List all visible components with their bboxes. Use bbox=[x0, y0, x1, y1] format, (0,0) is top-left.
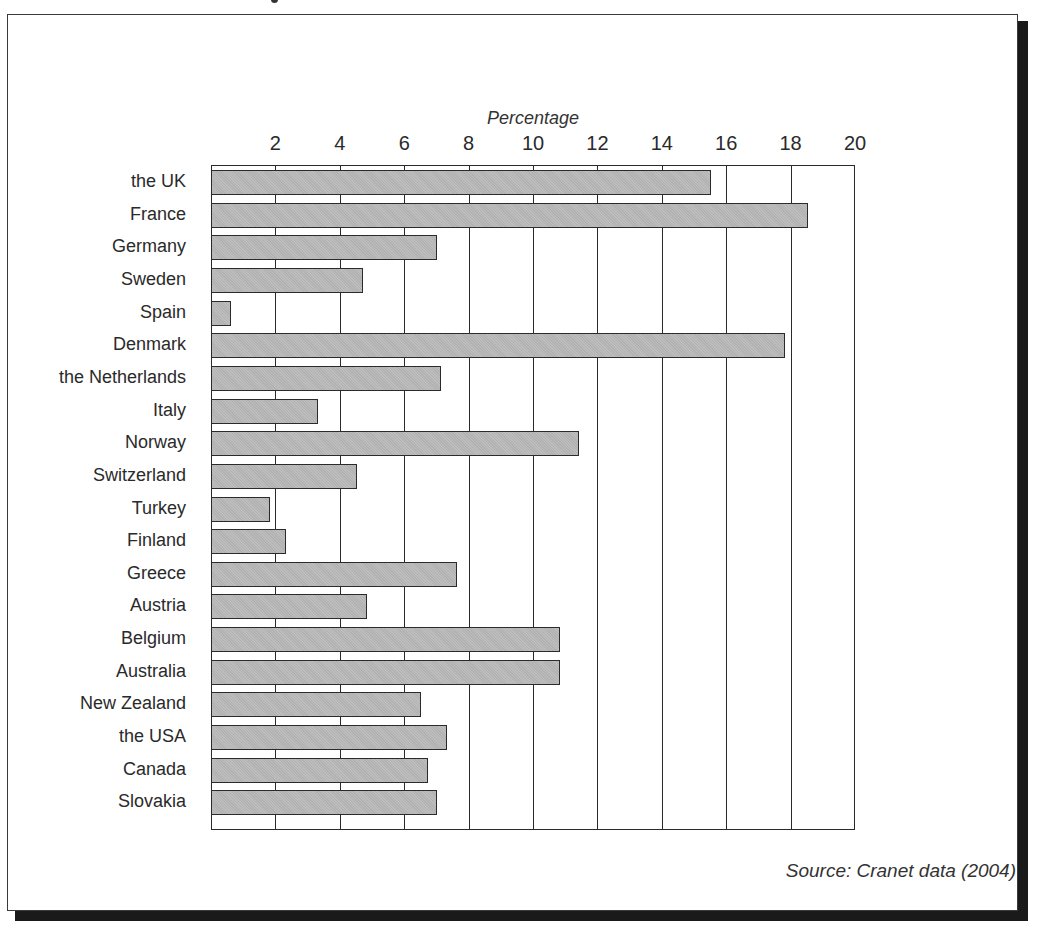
category-label: New Zealand bbox=[80, 691, 186, 716]
bar bbox=[212, 464, 357, 489]
category-label: Sweden bbox=[121, 267, 186, 292]
gridline-18 bbox=[791, 166, 792, 829]
cropped-title-fragment bbox=[271, 0, 281, 3]
x-tick-label: 20 bbox=[844, 132, 866, 155]
bar bbox=[212, 366, 441, 391]
plot-area bbox=[211, 165, 855, 830]
category-label: Austria bbox=[130, 593, 186, 618]
category-label: Finland bbox=[127, 528, 186, 553]
gridline-10 bbox=[533, 166, 534, 829]
category-label: Spain bbox=[140, 300, 186, 325]
x-tick-label: 14 bbox=[651, 132, 673, 155]
x-tick-label: 6 bbox=[399, 132, 410, 155]
bar bbox=[212, 725, 447, 750]
x-tick-label: 16 bbox=[715, 132, 737, 155]
bar bbox=[212, 203, 808, 228]
gridline-8 bbox=[469, 166, 470, 829]
bar bbox=[212, 692, 421, 717]
gridline-16 bbox=[726, 166, 727, 829]
bar bbox=[212, 301, 231, 326]
bar bbox=[212, 790, 437, 815]
x-axis-title: Percentage bbox=[211, 108, 855, 129]
x-tick-label: 4 bbox=[334, 132, 345, 155]
x-tick-label: 12 bbox=[586, 132, 608, 155]
x-tick-label: 2 bbox=[270, 132, 281, 155]
x-tick-label: 8 bbox=[463, 132, 474, 155]
bar bbox=[212, 529, 286, 554]
category-label: Italy bbox=[153, 398, 186, 423]
category-label: Denmark bbox=[113, 332, 186, 357]
bar bbox=[212, 333, 785, 358]
bar bbox=[212, 627, 560, 652]
category-label: Switzerland bbox=[93, 463, 186, 488]
category-label: Belgium bbox=[121, 626, 186, 651]
source-note: Source: Cranet data (2004) bbox=[786, 860, 1016, 882]
category-label: Slovakia bbox=[118, 789, 186, 814]
bar bbox=[212, 497, 270, 522]
category-label: the USA bbox=[119, 724, 186, 749]
x-tick-label: 10 bbox=[522, 132, 544, 155]
gridline-12 bbox=[597, 166, 598, 829]
bar bbox=[212, 399, 318, 424]
category-label: Canada bbox=[123, 757, 186, 782]
category-label: France bbox=[130, 202, 186, 227]
category-label: Norway bbox=[125, 430, 186, 455]
category-label: Germany bbox=[112, 234, 186, 259]
category-label: the UK bbox=[131, 169, 186, 194]
gridline-14 bbox=[662, 166, 663, 829]
bar bbox=[212, 235, 437, 260]
category-label: Turkey bbox=[132, 496, 186, 521]
category-label: Australia bbox=[116, 659, 186, 684]
bar bbox=[212, 660, 560, 685]
bar bbox=[212, 594, 367, 619]
bar bbox=[212, 562, 457, 587]
bar bbox=[212, 431, 579, 456]
x-tick-label: 18 bbox=[779, 132, 801, 155]
bar bbox=[212, 268, 363, 293]
bar bbox=[212, 170, 711, 195]
category-label: the Netherlands bbox=[59, 365, 186, 390]
bar bbox=[212, 758, 428, 783]
category-label: Greece bbox=[127, 561, 186, 586]
